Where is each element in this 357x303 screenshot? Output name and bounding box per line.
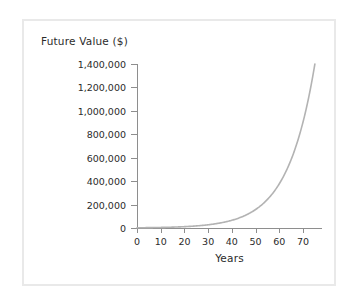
chart-figure: Future Value ($) 0200,000400,000600,0008… [0, 0, 357, 303]
x-tick-label: 0 [134, 236, 140, 247]
y-tick-label: 1,400,000 [26, 59, 126, 70]
x-tick-label: 70 [297, 236, 309, 247]
y-tick-label: 1,000,000 [26, 105, 126, 116]
future-value-curve [137, 64, 322, 229]
x-tick-label: 40 [226, 236, 238, 247]
x-tick-label: 50 [250, 236, 262, 247]
y-tick-label: 400,000 [26, 176, 126, 187]
x-tick-label: 60 [273, 236, 285, 247]
y-tick-label: 1,200,000 [26, 82, 126, 93]
y-tick-label: 800,000 [26, 129, 126, 140]
y-tick-label: 0 [26, 223, 126, 234]
x-tick-label: 10 [155, 236, 167, 247]
y-axis-title: Future Value ($) [41, 35, 128, 47]
y-tick-label: 600,000 [26, 152, 126, 163]
x-tick-label: 20 [178, 236, 190, 247]
x-axis-title: Years [137, 252, 322, 264]
x-tick-label: 30 [202, 236, 214, 247]
y-tick-label: 200,000 [26, 199, 126, 210]
